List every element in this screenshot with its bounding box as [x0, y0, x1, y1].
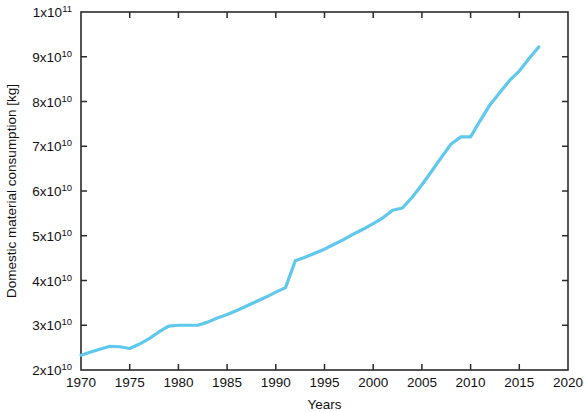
x-tick-label: 2005 — [407, 375, 437, 390]
y-tick-label: 3x1010 — [32, 316, 72, 333]
y-axis-title-group: Domestic material consumption [kg] — [4, 84, 19, 298]
y-tick-label: 1x1011 — [33, 3, 72, 20]
x-tick-label: 2020 — [553, 375, 583, 390]
y-tick-label: 8x1010 — [32, 93, 72, 110]
y-tick-label: 9x1010 — [32, 48, 72, 65]
x-tick-label: 1980 — [163, 375, 193, 390]
x-tick-label: 1995 — [309, 375, 339, 390]
x-tick-label: 1985 — [212, 375, 242, 390]
x-tick-label: 2015 — [504, 375, 534, 390]
axis-ticks — [81, 12, 568, 370]
x-tick-label: 1975 — [115, 375, 145, 390]
chart-canvas: Domestic material consumption [kg] Years… — [0, 0, 584, 412]
x-axis-title: Years — [307, 397, 341, 412]
x-axis-title-group: Years — [307, 397, 341, 412]
y-tick-label: 4x1010 — [32, 272, 72, 289]
x-axis-tick-labels: 1970197519801985199019952000200520102015… — [66, 375, 583, 390]
plot-border — [81, 12, 568, 370]
plot-frame — [81, 12, 568, 370]
y-axis-title: Domestic material consumption [kg] — [4, 84, 19, 298]
x-tick-label: 1970 — [66, 375, 96, 390]
y-tick-label: 5x1010 — [32, 227, 72, 244]
data-line-group — [81, 47, 539, 355]
chart-figure: Domestic material consumption [kg] Years… — [0, 0, 584, 412]
x-tick-label: 2000 — [358, 375, 388, 390]
x-tick-label: 1990 — [261, 375, 291, 390]
y-axis-tick-labels: 2x10103x10104x10105x10106x10107x10108x10… — [32, 3, 72, 378]
x-tick-label: 2010 — [456, 375, 486, 390]
y-tick-label: 7x1010 — [32, 137, 72, 154]
data-line-0 — [81, 47, 539, 355]
y-tick-label: 6x1010 — [32, 182, 72, 199]
